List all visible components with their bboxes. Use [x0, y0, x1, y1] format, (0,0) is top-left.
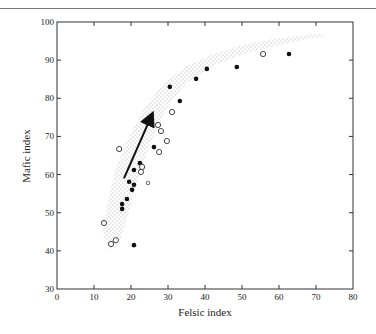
data-point — [113, 238, 118, 243]
y-axis-title: Mafic index — [20, 129, 32, 183]
scatter-chart: 01020304050607080 30405060708090100 Fels… — [0, 0, 376, 334]
data-point — [138, 169, 143, 174]
data-point — [169, 109, 174, 114]
x-tick-label: 80 — [349, 292, 359, 302]
y-tick-label: 50 — [45, 208, 55, 218]
x-axis-title: Felsic index — [178, 306, 232, 318]
x-tick-label: 70 — [312, 292, 322, 302]
data-point — [108, 241, 113, 246]
y-tick-label: 60 — [45, 170, 55, 180]
stippled-band — [103, 33, 323, 249]
data-point — [194, 77, 199, 82]
y-tick-label: 90 — [45, 55, 55, 65]
x-tick-label: 50 — [238, 292, 248, 302]
data-point — [132, 168, 137, 173]
data-point — [130, 188, 135, 193]
data-point — [140, 164, 145, 169]
y-tick-label: 100 — [41, 17, 55, 27]
data-point — [287, 52, 292, 57]
data-point — [101, 220, 106, 225]
data-point — [125, 197, 130, 202]
x-tick-label: 30 — [164, 292, 174, 302]
data-point — [260, 51, 265, 56]
x-tick-label: 10 — [90, 292, 100, 302]
x-tick-label: 40 — [201, 292, 211, 302]
y-axis: 30405060708090100 — [41, 17, 354, 294]
data-point — [152, 145, 157, 150]
data-point — [117, 146, 122, 151]
data-point — [127, 180, 132, 185]
data-point — [157, 149, 162, 154]
data-point — [132, 183, 137, 188]
y-tick-label: 80 — [45, 93, 55, 103]
x-tick-label: 0 — [55, 292, 60, 302]
x-tick-label: 60 — [275, 292, 285, 302]
data-point — [146, 181, 150, 185]
y-tick-label: 70 — [45, 131, 55, 141]
data-point — [155, 122, 160, 127]
x-tick-label: 20 — [127, 292, 137, 302]
data-point — [235, 65, 240, 70]
data-point — [120, 207, 125, 212]
y-tick-label: 30 — [45, 284, 55, 294]
data-point — [205, 67, 210, 72]
data-point — [120, 202, 125, 207]
data-point — [164, 138, 169, 143]
data-point — [158, 128, 163, 133]
y-tick-label: 40 — [45, 246, 55, 256]
data-point — [178, 99, 183, 104]
data-point — [132, 243, 137, 248]
data-point — [168, 85, 173, 90]
